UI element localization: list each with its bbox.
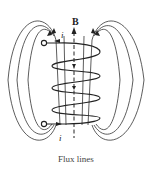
terminal-top [41, 40, 46, 45]
caption: Flux lines [0, 154, 152, 164]
left-flux-lines [8, 21, 56, 140]
current-label-bottom: i [59, 133, 62, 143]
right-flux-lines [92, 21, 144, 140]
field-b-label: B [72, 16, 79, 27]
terminal-bottom [41, 121, 46, 126]
current-label-top: i [61, 30, 64, 40]
